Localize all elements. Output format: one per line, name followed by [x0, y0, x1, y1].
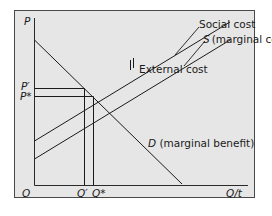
demand-description: (marginal benefit) [156, 137, 254, 149]
q-star-label: Q* [92, 187, 106, 199]
supply-description: (marginal cost) [212, 33, 272, 45]
y-axis-label: P [24, 15, 31, 27]
demand-symbol: D [148, 137, 156, 149]
external-cost-label: External cost [139, 63, 208, 75]
q-prime-label: Q′ [77, 187, 88, 199]
supply-symbol: S [203, 33, 210, 45]
origin-label: O [22, 187, 30, 199]
social-cost-label: Social cost [199, 18, 255, 30]
p-star-label: P* [20, 90, 32, 102]
x-axis-label: Q/t [226, 187, 243, 199]
diagram-canvas: P O Q/t P′ P* Q′ Q* Social cost S(margin… [0, 0, 272, 216]
demand-label: D (marginal benefit) [148, 137, 254, 149]
externality-diagram: P O Q/t P′ P* Q′ Q* Social cost S(margin… [0, 0, 272, 216]
supply-label: S(marginal cost) [203, 33, 272, 45]
